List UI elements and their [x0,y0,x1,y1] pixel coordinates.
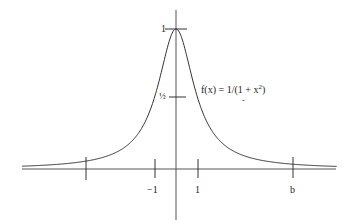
formula-suffix: ) [262,84,265,95]
y-label-half: ½ [159,92,166,101]
y-label-1: 1 [161,24,166,34]
function-formula: f(x) = 1/(1 + x2) [201,84,265,95]
x-label-b: b [290,185,295,195]
formula-prefix: f(x) = 1/(1 + x [201,84,258,95]
x-label-1: 1 [195,185,200,195]
function-curve [22,29,337,166]
x-label-neg1: −1 [147,185,158,195]
function-plot [0,0,355,224]
formula-mark: - [242,97,245,105]
